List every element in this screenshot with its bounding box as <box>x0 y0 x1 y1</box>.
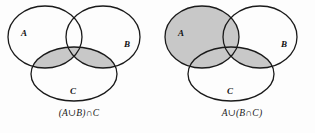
set-label-c: C <box>227 86 234 96</box>
caption-right: A∪(B∩C) <box>157 107 315 118</box>
venn-figure-page: A B C (A∪B)∩C A B C <box>0 0 315 133</box>
venn-svg-right: A B C <box>157 0 315 106</box>
set-label-a: A <box>177 28 184 38</box>
venn-diagram-left: A B C (A∪B)∩C <box>0 0 158 133</box>
set-label-c: C <box>70 86 77 96</box>
venn-svg-left: A B C <box>0 0 158 106</box>
set-label-b: B <box>123 39 130 49</box>
set-label-b: B <box>280 39 287 49</box>
caption-left: (A∪B)∩C <box>0 107 158 118</box>
venn-diagram-right: A B C A∪(B∩C) <box>157 0 315 133</box>
set-label-a: A <box>20 28 27 38</box>
